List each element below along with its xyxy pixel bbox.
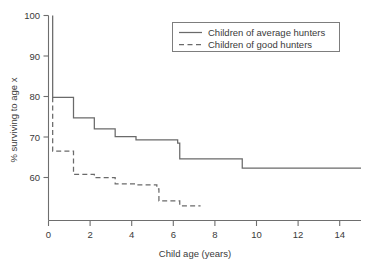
x-tick-marks bbox=[49, 221, 340, 227]
y-tick-marks bbox=[44, 16, 49, 178]
x-tick-label-12: 12 bbox=[293, 229, 304, 240]
legend: Children of average hunters Children of … bbox=[173, 23, 340, 52]
chart-canvas: 100 90 80 70 60 0 2 4 6 8 10 12 14 Child… bbox=[0, 0, 368, 269]
x-tick-label-0: 0 bbox=[46, 229, 51, 240]
x-axis-title: Child age (years) bbox=[159, 248, 231, 259]
x-tick-label-4: 4 bbox=[129, 229, 134, 240]
y-tick-label-70: 70 bbox=[29, 132, 40, 143]
y-tick-label-80: 80 bbox=[29, 91, 40, 102]
x-tick-label-8: 8 bbox=[212, 229, 217, 240]
y-tick-label-90: 90 bbox=[29, 51, 40, 62]
x-tick-label-6: 6 bbox=[171, 229, 176, 240]
survival-curve-figure: 100 90 80 70 60 0 2 4 6 8 10 12 14 Child… bbox=[0, 0, 368, 269]
y-tick-label-60: 60 bbox=[29, 172, 40, 183]
x-tick-label-2: 2 bbox=[87, 229, 92, 240]
series-line-good-hunters bbox=[53, 97, 201, 206]
y-axis-title: % surviving to age x bbox=[8, 77, 19, 162]
y-tick-label-100: 100 bbox=[24, 10, 40, 21]
x-tick-label-14: 14 bbox=[334, 229, 345, 240]
legend-label-average-hunters: Children of average hunters bbox=[208, 27, 325, 38]
x-tick-label-10: 10 bbox=[251, 229, 262, 240]
legend-label-good-hunters: Children of good hunters bbox=[208, 39, 312, 50]
